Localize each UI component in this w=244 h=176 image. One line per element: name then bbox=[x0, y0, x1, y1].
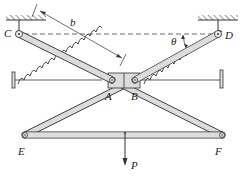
label-E: E bbox=[18, 146, 25, 157]
diagram-drawing bbox=[0, 0, 244, 176]
link-DB bbox=[135, 34, 218, 80]
label-b: b bbox=[70, 17, 76, 28]
link-CA bbox=[19, 34, 112, 80]
label-F: F bbox=[215, 146, 222, 157]
ground-support-left bbox=[6, 15, 46, 30]
dimension-b bbox=[32, 4, 126, 66]
label-B: B bbox=[131, 91, 138, 102]
angle-theta bbox=[181, 35, 188, 48]
label-P: P bbox=[131, 160, 138, 171]
ground-support-right bbox=[198, 15, 238, 30]
label-A: A bbox=[105, 91, 112, 102]
mechanism-diagram: C D A B E F b θ P bbox=[0, 0, 244, 176]
label-theta: θ bbox=[171, 36, 176, 47]
label-D: D bbox=[225, 30, 233, 41]
label-C: C bbox=[4, 28, 11, 39]
